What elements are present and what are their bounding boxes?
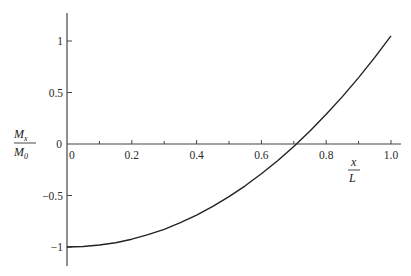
x-tick-label: 0.6 bbox=[254, 149, 269, 161]
y-tick-label: −0.5 bbox=[42, 190, 63, 202]
svg-text:Mx: Mx bbox=[13, 127, 28, 143]
y-tick-label: 0.5 bbox=[49, 87, 64, 99]
x-tick-label: 0.2 bbox=[125, 149, 140, 161]
svg-text:M0: M0 bbox=[13, 145, 28, 161]
x-tick-label: 0 bbox=[69, 149, 75, 161]
x-tick-label: 1.0 bbox=[384, 149, 399, 161]
y-tick-label: 1 bbox=[57, 35, 63, 47]
svg-text:L: L bbox=[348, 171, 356, 185]
x-tick-label: 0.8 bbox=[319, 149, 334, 161]
y-axis: 10.50−0.5−1 bbox=[42, 13, 72, 266]
y-tick-label: 0 bbox=[56, 138, 62, 150]
x-axis-label: x L bbox=[348, 155, 360, 185]
svg-text:x: x bbox=[350, 155, 357, 169]
y-tick-label: −1 bbox=[51, 241, 63, 253]
y-axis-label: Mx M0 bbox=[13, 127, 36, 161]
chart: 10.50−0.5−1 00.20.40.60.81.0 Mx M0 x L bbox=[0, 0, 411, 276]
x-tick-label: 0.4 bbox=[189, 149, 204, 161]
